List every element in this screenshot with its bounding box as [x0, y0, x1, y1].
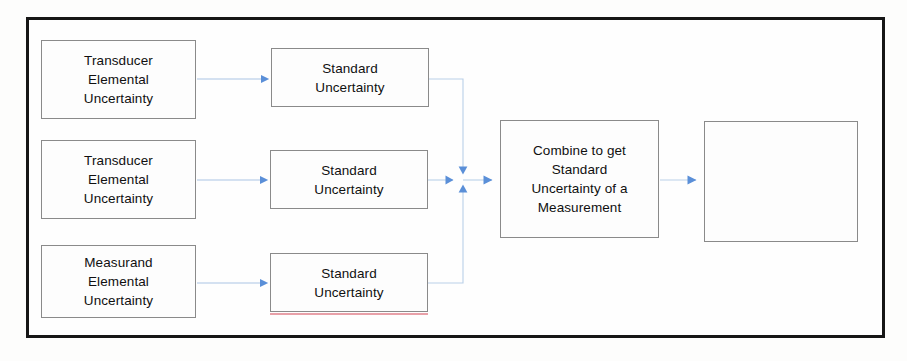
diagram-canvas: Transducer Elemental Uncertainty Transdu…	[0, 0, 907, 361]
node-combine-to-get-standard-uncertainty[interactable]: Combine to get Standard Uncertainty of a…	[500, 120, 659, 238]
node-transducer-elemental-uncertainty-2[interactable]: Transducer Elemental Uncertainty	[41, 140, 196, 219]
node-measurand-elemental-uncertainty[interactable]: Measurand Elemental Uncertainty	[41, 245, 196, 318]
node-transducer-elemental-uncertainty-1[interactable]: Transducer Elemental Uncertainty	[41, 40, 196, 119]
node-standard-uncertainty-3[interactable]: Standard Uncertainty	[270, 253, 428, 312]
node-result-box-empty[interactable]	[704, 121, 858, 242]
node-standard-uncertainty-1[interactable]: Standard Uncertainty	[271, 48, 429, 107]
node-standard-uncertainty-2[interactable]: Standard Uncertainty	[270, 150, 428, 209]
